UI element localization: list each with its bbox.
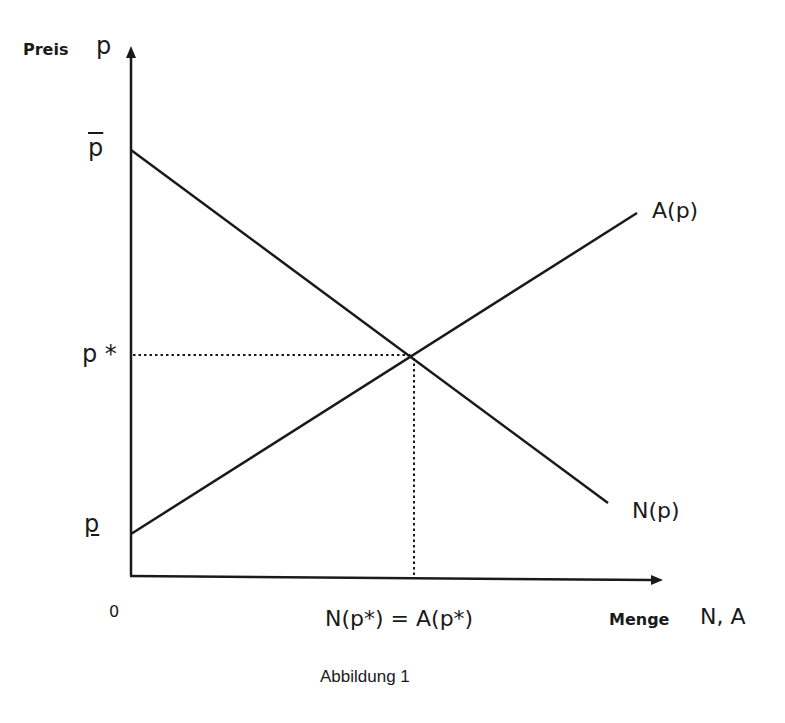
tick-p-min: p	[84, 512, 99, 536]
tick-p-max: p	[88, 136, 103, 160]
x-axis-arrow-icon	[651, 575, 663, 585]
supply-label: A(p)	[652, 200, 698, 222]
y-axis-arrow-icon	[126, 46, 136, 58]
figure-caption: Abbildung 1	[320, 668, 410, 685]
demand-label: N(p)	[632, 500, 680, 522]
supply-curve	[131, 213, 637, 534]
y-axis-symbol: p	[96, 34, 111, 58]
equilibrium-quantity-label: N(p*) = A(p*)	[325, 608, 473, 630]
demand-curve	[131, 150, 608, 503]
x-axis	[130, 576, 652, 580]
x-axis-symbol: N, A	[700, 606, 746, 628]
y-axis-word: Preis	[23, 42, 68, 58]
x-axis-word: Menge	[609, 612, 669, 628]
tick-p-star: p *	[82, 342, 117, 366]
origin-label: 0	[109, 604, 119, 620]
